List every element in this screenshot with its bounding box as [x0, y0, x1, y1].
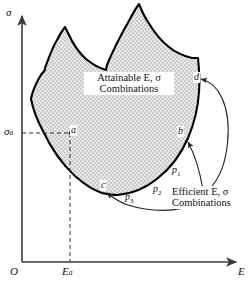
e-a-tick-label: Ea [62, 266, 72, 278]
portfolio-p2-label: p2 [153, 184, 162, 198]
portfolio-p1-subscript: 1 [177, 170, 181, 178]
figure-canvas: σ E O σa Ea Attainable E, σ Combinations… [0, 0, 251, 286]
efficient-frontier-caption: Efficient E, σ Combinations [170, 186, 251, 209]
portfolio-p3-subscript: 3 [130, 197, 134, 205]
point-d-label: d [193, 72, 200, 83]
efficient-caption-line2: Combinations [172, 197, 251, 208]
origin-label: O [10, 266, 18, 278]
point-a-label: a [70, 125, 77, 136]
e-a-subscript: a [69, 268, 73, 277]
diagram-svg [0, 0, 251, 286]
x-axis-label: E [238, 266, 245, 278]
leader-arrow-to-d [201, 79, 228, 186]
portfolio-p1-label: p1 [172, 165, 181, 179]
leader-arrow-to-b [188, 142, 203, 190]
portfolio-p3-label: p3 [125, 192, 134, 206]
efficient-caption-line1: Efficient E, σ [172, 186, 251, 197]
attainable-region-caption: Attainable E, σ Combinations [84, 72, 174, 95]
attainable-caption-line1: Attainable E, σ [86, 72, 172, 83]
portfolio-p2-subscript: 2 [158, 189, 162, 197]
attainable-caption-line2: Combinations [86, 83, 172, 94]
y-axis-label: σ [6, 7, 11, 19]
point-c-label: c [100, 180, 106, 191]
sigma-a-subscript: a [9, 128, 13, 137]
e-a-base: E [62, 265, 69, 277]
sigma-a-tick-label: σa [4, 126, 13, 138]
point-b-label: b [177, 126, 184, 137]
